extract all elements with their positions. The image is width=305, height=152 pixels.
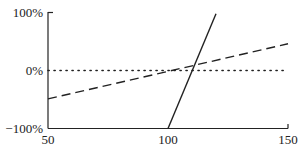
series-layer bbox=[48, 14, 288, 129]
series-dashed-line bbox=[48, 44, 288, 99]
x-tick-label-150: 150 bbox=[278, 132, 298, 147]
x-tick-label-100: 100 bbox=[158, 132, 178, 147]
y-tick-label-100: 100% bbox=[13, 5, 44, 20]
chart: 100% 0% −100% 50 100 150 bbox=[0, 0, 305, 152]
x-tick-labels: 50 100 150 bbox=[42, 132, 298, 147]
y-tick-label-neg100: −100% bbox=[5, 121, 43, 136]
y-tick-labels: 100% 0% −100% bbox=[5, 5, 43, 136]
y-tick-label-0: 0% bbox=[26, 63, 44, 78]
x-tick-label-50: 50 bbox=[42, 132, 55, 147]
